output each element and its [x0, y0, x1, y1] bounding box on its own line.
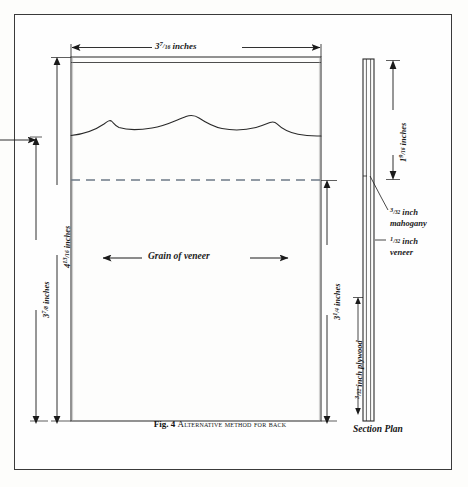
section-top-denominator: 16 — [400, 148, 406, 153]
section-top-whole: 1 — [398, 158, 408, 162]
grain-of-veneer-label: Grain of veneer — [148, 252, 210, 262]
left-height-unit: inches — [41, 281, 51, 304]
veneer-unit: inch — [402, 236, 418, 246]
right-height-whole: 3 — [332, 316, 342, 320]
mahogany-denominator: 32 — [395, 209, 400, 215]
plywood-denominator: 32 — [356, 389, 362, 394]
plywood-unit: inch — [354, 371, 364, 387]
section-top-dimension-label: 19/16 inches — [398, 123, 407, 162]
figure-number: Fig. 4 — [154, 419, 176, 429]
overall-height-numerator: 13 — [61, 257, 68, 263]
width-denominator: 16 — [165, 44, 171, 50]
right-height-denominator: 4 — [334, 308, 340, 311]
mahogany-material-label: mahogany — [390, 219, 427, 228]
overall-height-dimension-label: 413/16 inches — [62, 226, 71, 268]
veneer-material-label: veneer — [390, 248, 413, 257]
width-unit: inches — [173, 41, 197, 51]
section-top-numerator: 9 — [397, 155, 404, 158]
left-height-denominator: 8 — [43, 306, 49, 309]
section-plan-caption: Section Plan — [353, 424, 403, 434]
overall-height-unit: inches — [62, 226, 72, 249]
left-height-numerator: 7 — [40, 311, 47, 314]
plywood-numerator: 3 — [353, 396, 360, 399]
section-top-dimension-line — [386, 60, 400, 180]
overall-height-whole: 4 — [62, 264, 72, 268]
veneer-denominator: 32 — [395, 238, 400, 244]
figure-page: 37/16 inches 37/8 inches 413/16 inches 3… — [0, 0, 468, 487]
figure-caption-text: Alternative method for back — [177, 419, 286, 429]
section-top-unit: inches — [398, 123, 408, 146]
mahogany-thickness-label: 3/32 inch — [390, 207, 418, 216]
mahogany-unit: inch — [402, 207, 418, 217]
veneer-thickness-label: 1/32 inch — [390, 236, 418, 245]
right-height-dimension-label: 31/4 inches — [332, 283, 341, 320]
width-dimension-label: 37/16 inches — [155, 41, 197, 51]
figure-caption: Fig. 4 Alternative method for back — [100, 419, 340, 429]
right-height-numerator: 1 — [331, 313, 338, 316]
left-height-whole: 3 — [41, 314, 51, 318]
right-height-unit: inches — [332, 283, 342, 306]
plywood-material-label: plywood — [354, 340, 364, 369]
left-height-dimension-label: 37/8 inches — [41, 281, 50, 318]
section-plan-bar — [363, 59, 374, 421]
front-view-panel — [71, 57, 321, 421]
plywood-thickness-label: 3/32 inch plywood — [354, 340, 363, 399]
overall-height-denominator: 16 — [64, 250, 70, 255]
